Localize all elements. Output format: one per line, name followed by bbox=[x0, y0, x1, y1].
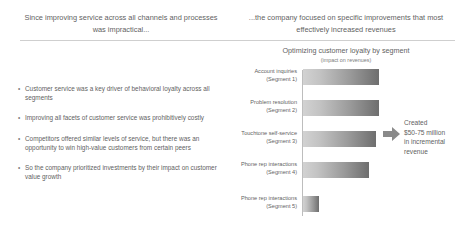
bar-label: Touchtone self-service (Segment 3) bbox=[215, 130, 297, 145]
bar-label-segment: (Segment 2) bbox=[266, 107, 297, 113]
bar-label: Phone rep interactions (Segment 5) bbox=[215, 195, 297, 210]
bullet-item: Competitors offered similar levels of se… bbox=[18, 134, 224, 152]
bar-row: Problem resolution (Segment 2) bbox=[225, 99, 405, 125]
callout-line-3: in incremental bbox=[404, 138, 445, 145]
callout-line-2: $50-75 million bbox=[404, 129, 445, 136]
bar-label-name: Phone rep interactions bbox=[241, 161, 297, 167]
chart-title: Optimizing customer loyalty by segment bbox=[238, 46, 454, 56]
bullet-list: Customer service was a key driver of beh… bbox=[18, 84, 224, 192]
bar-label-segment: (Segment 5) bbox=[266, 203, 297, 209]
bar-segment-4 bbox=[303, 162, 369, 178]
header-left-statement: Since improving service across all chann… bbox=[18, 12, 224, 35]
bar-segment-2 bbox=[303, 100, 379, 116]
chart-subtitle: (impact on revenues) bbox=[238, 56, 454, 64]
bullet-item: So the company prioritized investments b… bbox=[18, 163, 224, 181]
header-right-statement: ...the company focused on specific impro… bbox=[238, 12, 454, 35]
bar-label: Phone rep interactions (Segment 4) bbox=[215, 161, 297, 176]
bar-row: Phone rep interactions (Segment 5) bbox=[225, 195, 405, 221]
right-arrow-icon bbox=[383, 126, 400, 142]
bar-segment-1 bbox=[303, 69, 379, 85]
bar-label-segment: (Segment 4) bbox=[266, 169, 297, 175]
bar-label-name: Account inquiries bbox=[254, 68, 297, 74]
bullet-item: Customer service was a key driver of beh… bbox=[18, 84, 224, 102]
bar-label: Problem resolution (Segment 2) bbox=[215, 99, 297, 114]
bar-row: Phone rep interactions (Segment 4) bbox=[225, 161, 405, 187]
slide-canvas: Since improving service across all chann… bbox=[0, 0, 468, 230]
bar-label-name: Phone rep interactions bbox=[241, 195, 297, 201]
bar-label-segment: (Segment 1) bbox=[266, 76, 297, 82]
bar-segment-3 bbox=[303, 131, 376, 147]
bar-row: Account inquiries (Segment 1) bbox=[225, 68, 405, 94]
bullet-item: Improving all facets of customer service… bbox=[18, 113, 224, 122]
bar-label: Account inquiries (Segment 1) bbox=[215, 68, 297, 83]
bar-label-segment: (Segment 3) bbox=[266, 138, 297, 144]
header-divider bbox=[20, 40, 455, 41]
bar-row: Touchtone self-service (Segment 3) bbox=[225, 130, 405, 156]
bar-chart: Account inquiries (Segment 1) Problem re… bbox=[225, 68, 405, 218]
callout-text: Created $50-75 million in incremental re… bbox=[404, 118, 466, 156]
bar-label-name: Problem resolution bbox=[250, 99, 297, 105]
callout-line-1: Created bbox=[404, 119, 427, 126]
bar-label-name: Touchtone self-service bbox=[241, 130, 297, 136]
callout-line-4: revenue bbox=[404, 148, 428, 155]
bar-segment-5 bbox=[303, 196, 319, 212]
